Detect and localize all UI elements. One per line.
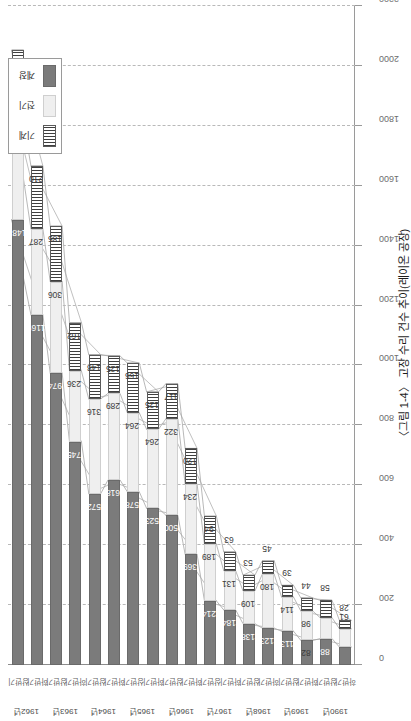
bar-value-label: 98 — [294, 619, 318, 629]
bar-value-label: 189 — [197, 552, 221, 562]
axis-tick — [355, 484, 362, 485]
axis-tick — [355, 664, 362, 665]
year-label: 1969년 — [280, 707, 314, 718]
bar-segment — [147, 392, 159, 429]
bar-group: 618289125 — [108, 6, 120, 665]
bar-group: 369234120 — [185, 6, 197, 665]
axis-tick-label: 0 — [379, 653, 403, 663]
legend-item: 기계 — [14, 125, 56, 147]
axis-tick-label: 400 — [379, 533, 403, 543]
bar-segment — [166, 515, 178, 665]
bar-value-label: 185 — [43, 234, 67, 244]
bar-value-label: 745 — [62, 450, 86, 460]
legend-label: 기계 — [19, 125, 35, 147]
bar-value-label: 369 — [178, 562, 202, 572]
bar-value-label: 63 — [217, 535, 241, 545]
year-label: 1990년 — [318, 707, 352, 718]
bar-segment — [89, 494, 101, 665]
bar-value-label: 572 — [82, 502, 106, 512]
bar-group: 13810953 — [243, 6, 255, 665]
year-label: 1965년 — [125, 707, 159, 718]
bar-value-label: 210 — [24, 174, 48, 184]
bar-segment — [243, 575, 255, 591]
bar-group: 11311439 — [282, 6, 294, 665]
category-label: 하반기 — [331, 677, 361, 688]
legend-swatch — [43, 65, 56, 87]
bar-segment — [31, 315, 43, 665]
legend-swatch — [43, 125, 56, 147]
axis-tick — [355, 245, 362, 246]
axis-tick — [355, 305, 362, 306]
rotated-chart-wrapper: 0200400600800100012001400160018002000220… — [0, 0, 411, 721]
bar-segment — [69, 442, 81, 665]
axis-tick — [355, 364, 362, 365]
year-label: 1966년 — [164, 707, 198, 718]
bar-value-label: 500 — [159, 523, 183, 533]
bar-value-label: 322 — [159, 427, 183, 437]
bar-group: 887058 — [320, 6, 332, 665]
year-label: 1963년 — [48, 707, 82, 718]
bar-value-label: 166 — [120, 371, 144, 381]
bar-segment — [185, 448, 197, 484]
bar-segment — [127, 492, 139, 665]
bar-group: 745236162 — [69, 6, 81, 665]
bar-segment — [147, 508, 159, 665]
bar-segment — [301, 598, 313, 611]
bar-group: 21418994 — [204, 6, 216, 665]
bar-value-label: 117 — [159, 392, 183, 402]
axis-tick-label: 1800 — [379, 114, 403, 124]
bar-value-label: 184 — [217, 618, 241, 628]
figure-title: 〈그림 1-4〉 고장 수리 건수 추이(레이온 공장) — [395, 226, 411, 446]
bar-segment — [108, 356, 120, 393]
bar-segment — [12, 220, 24, 665]
bar-value-label: 236 — [62, 379, 86, 389]
bar-segment — [262, 561, 274, 574]
bar-value-label: 618 — [101, 488, 125, 498]
bar-segment — [339, 620, 351, 628]
year-label: 1967년 — [203, 707, 237, 718]
bar-value-label: 180 — [255, 582, 279, 592]
legend: 기계전기계장 — [8, 58, 62, 154]
bar-group: 523264125 — [147, 6, 159, 665]
bar-value-label: 114 — [275, 605, 299, 615]
bar-group: 500322117 — [166, 6, 178, 665]
bar-value-label: 39 — [275, 568, 299, 578]
bar-group: 572316148 — [89, 6, 101, 665]
axis-tick-label: 1600 — [379, 174, 403, 184]
bar-value-label: 264 — [120, 421, 144, 431]
axis-baseline — [354, 6, 355, 665]
bar-segment — [69, 323, 81, 372]
bar-group: 12318045 — [262, 6, 274, 665]
axis-tick-label: 2000 — [379, 54, 403, 64]
bar-segment — [50, 373, 62, 665]
figure-root: 0200400600800100012001400160018002000220… — [0, 0, 411, 721]
bar-value-label: 131 — [217, 579, 241, 589]
bar-segment — [224, 571, 236, 610]
bar-value-label: 234 — [178, 492, 202, 502]
bar-segment — [320, 600, 332, 617]
legend-swatch — [43, 95, 56, 117]
year-label: 1968년 — [241, 707, 275, 718]
axis-tick-label: 200 — [379, 593, 403, 603]
bar-group: 578264166 — [127, 6, 139, 665]
bar-value-label: 88 — [313, 647, 337, 657]
bar-value-label: 28 — [332, 603, 356, 613]
bar-value-label: 53 — [236, 558, 260, 568]
legend-item: 전기 — [14, 95, 56, 117]
axis-tick-label: 2200 — [379, 0, 403, 4]
bar-segment — [282, 585, 294, 597]
bar-segment — [339, 647, 351, 665]
bar-value-label: 578 — [120, 500, 144, 510]
bar-value-label: 306 — [43, 290, 67, 300]
bar-segment — [224, 552, 236, 571]
bar-value-label: 162 — [62, 331, 86, 341]
bar-value-label: 94 — [197, 524, 221, 534]
bar-segment — [262, 628, 274, 665]
axis-tick-label: 600 — [379, 473, 403, 483]
bar-value-label: 120 — [178, 456, 202, 466]
axis-tick — [355, 125, 362, 126]
axis-tick — [355, 544, 362, 545]
bar-segment — [320, 618, 332, 639]
bar-segment — [243, 624, 255, 665]
axis-tick — [355, 5, 362, 6]
